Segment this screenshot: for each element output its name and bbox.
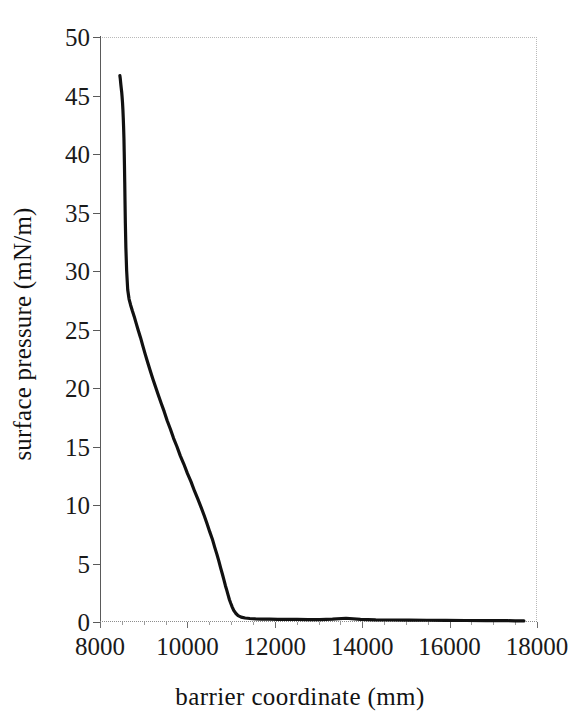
- series-layer: [100, 37, 537, 622]
- y-tick-label-15: 15: [48, 435, 90, 460]
- y-tick-25: [93, 330, 100, 331]
- y-tick-label-45: 45: [48, 84, 90, 109]
- y-tick-label-40: 40: [48, 142, 90, 167]
- y-tick-label-35: 35: [48, 201, 90, 226]
- x-tick-8000: [100, 622, 101, 628]
- y-tick-label-5: 5: [48, 552, 90, 577]
- x-tick-minor: [122, 622, 123, 625]
- x-tick-minor: [166, 622, 167, 625]
- x-tick-14000: [362, 622, 363, 628]
- x-tick-minor: [428, 622, 429, 625]
- y-tick-45: [93, 96, 100, 97]
- y-tick-label-0: 0: [48, 610, 90, 635]
- y-tick-0: [93, 622, 100, 623]
- x-tick-minor: [253, 622, 254, 625]
- y-tick-15: [93, 447, 100, 448]
- x-tick-18000: [537, 622, 538, 628]
- y-axis-title: surface pressure (mN/m): [6, 4, 40, 664]
- x-axis-title: barrier coordinate (mm): [60, 683, 540, 711]
- y-tick-label-25: 25: [48, 318, 90, 343]
- x-tick-minor: [209, 622, 210, 625]
- y-tick-label-20: 20: [48, 376, 90, 401]
- y-tick-40: [93, 154, 100, 155]
- y-tick-label-50: 50: [48, 25, 90, 50]
- y-tick-30: [93, 271, 100, 272]
- plot-area: [100, 37, 537, 622]
- y-tick-5: [93, 564, 100, 565]
- x-tick-minor: [471, 622, 472, 625]
- x-tick-minor: [406, 622, 407, 625]
- y-tick-35: [93, 213, 100, 214]
- x-tick-minor: [384, 622, 385, 625]
- x-tick-label-18000: 18000: [477, 634, 584, 659]
- data-line-isotherm: [120, 76, 524, 621]
- x-tick-minor: [319, 622, 320, 625]
- x-tick-12000: [275, 622, 276, 628]
- x-tick-10000: [187, 622, 188, 628]
- y-tick-50: [93, 37, 100, 38]
- y-tick-10: [93, 505, 100, 506]
- y-tick-label-30: 30: [48, 259, 90, 284]
- x-tick-16000: [450, 622, 451, 628]
- x-tick-minor: [340, 622, 341, 625]
- chart-figure: surface pressure (mN/m) 0510152025303540…: [0, 0, 584, 728]
- x-tick-minor: [515, 622, 516, 625]
- x-tick-minor: [144, 622, 145, 625]
- x-tick-minor: [297, 622, 298, 625]
- x-tick-minor: [493, 622, 494, 625]
- y-tick-20: [93, 388, 100, 389]
- y-tick-label-10: 10: [48, 493, 90, 518]
- x-tick-minor: [231, 622, 232, 625]
